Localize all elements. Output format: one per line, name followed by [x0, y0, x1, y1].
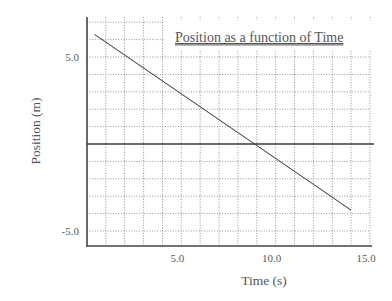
x-tick-label: 5.0	[170, 252, 184, 264]
position-line	[95, 34, 352, 210]
y-tick-label: -5.0	[62, 225, 80, 237]
y-tick-label: 5.0	[65, 51, 79, 63]
x-tick-label: 15.0	[356, 252, 376, 264]
y-axis-title: Position (m)	[28, 97, 43, 164]
axes	[87, 17, 374, 247]
chart-title: Position as a function of Time	[175, 30, 343, 45]
data-series	[95, 34, 352, 210]
grid	[87, 17, 370, 246]
x-tick-label: 10.0	[262, 252, 282, 264]
position-time-chart: 5.010.015.05.0-5.0 Position as a functio…	[0, 0, 392, 301]
x-axis-title: Time (s)	[241, 273, 287, 288]
